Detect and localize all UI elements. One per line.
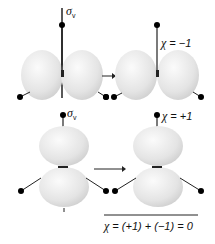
p-orbital-lobe-left xyxy=(21,50,63,100)
atom-left xyxy=(112,188,118,194)
character-sum: χ = (+1) + (−1) = 0 xyxy=(103,219,194,233)
atom-top xyxy=(59,22,65,28)
atom-left xyxy=(17,94,23,100)
top-right-molecule: χ = −1 xyxy=(103,22,204,100)
p-orbital-lobe-right xyxy=(157,50,199,100)
top-left-molecule: σv xyxy=(17,4,109,100)
p-orbital-lobe-upper xyxy=(39,126,89,166)
arrow-top xyxy=(102,73,116,79)
arrow-bottom xyxy=(94,166,126,172)
atom-left xyxy=(18,188,24,194)
atom-top xyxy=(154,112,160,118)
character-diagram: σv χ = −1 σv xyxy=(0,0,215,244)
p-orbital-lobe-right xyxy=(61,50,103,100)
atom-top xyxy=(60,112,66,118)
atom-left xyxy=(111,94,117,100)
sigma-v-label-bottom: σv xyxy=(67,106,77,121)
atom-top xyxy=(154,22,160,28)
bottom-left-molecule: σv xyxy=(18,106,109,212)
sigma-v-label-top: σv xyxy=(66,4,76,19)
p-orbital-lobe-upper xyxy=(133,126,183,166)
p-orbital-lobe-lower xyxy=(39,167,89,207)
bottom-right-molecule: χ = +1 xyxy=(112,109,204,207)
atom-right xyxy=(103,188,109,194)
atom-right xyxy=(198,188,204,194)
p-orbital-lobe-lower xyxy=(133,167,183,207)
character-label-bottom: χ = +1 xyxy=(161,109,192,123)
p-orbital-lobe-left xyxy=(115,50,157,100)
character-label-top: χ = −1 xyxy=(160,36,191,50)
atom-right xyxy=(198,94,204,100)
